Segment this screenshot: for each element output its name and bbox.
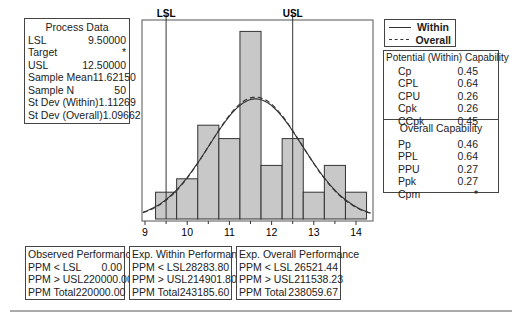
stat-value: 0.27 bbox=[458, 175, 478, 188]
x-tick-label: 11 bbox=[224, 226, 235, 238]
stat-label: PPM < LSL bbox=[239, 261, 292, 274]
stat-value: 243185.60 bbox=[180, 286, 230, 299]
overall-capability-title: Overall Capability bbox=[386, 122, 496, 135]
stat-label: PPM < LSL bbox=[28, 261, 81, 274]
exp-overall-performance-panel: Exp. Overall Performance PPM < LSL26521.… bbox=[236, 246, 341, 300]
stat-label: PPM > USL bbox=[132, 273, 187, 286]
stat-value: * bbox=[474, 188, 478, 201]
stat-row: PPM > USL211538.23 bbox=[239, 273, 338, 286]
stat-value: 238059.67 bbox=[288, 286, 338, 299]
stat-row: Ppk0.27 bbox=[386, 175, 496, 188]
histogram-bar bbox=[219, 139, 240, 219]
stat-row: Cp0.45 bbox=[386, 65, 496, 78]
stat-row: PPL0.64 bbox=[386, 150, 496, 163]
stat-label: Cpm bbox=[398, 188, 420, 201]
potential-capability-title: Potential (Within) Capability bbox=[386, 52, 496, 65]
observed-performance-panel: Observed Performance PPM < LSL0.00PPM > … bbox=[25, 246, 125, 300]
bottom-divider bbox=[10, 310, 512, 312]
legend-item-overall: Overall bbox=[389, 34, 451, 47]
stat-label: PPM > USL bbox=[239, 273, 294, 286]
exp-within-performance-title: Exp. Within Performance bbox=[132, 248, 229, 261]
histogram-bar bbox=[198, 125, 219, 219]
capability-panel: Potential (Within) Capability Cp0.45CPL0… bbox=[383, 50, 499, 193]
stat-label: PPM > USL bbox=[28, 273, 83, 286]
stat-value: 28283.80 bbox=[185, 261, 229, 274]
x-tick-label: 10 bbox=[181, 226, 193, 238]
exp-within-performance-panel: Exp. Within Performance PPM < LSL28283.8… bbox=[129, 246, 232, 300]
lsl-label: LSL bbox=[157, 8, 176, 19]
histogram-bar bbox=[240, 31, 261, 219]
stat-value: 0.64 bbox=[458, 150, 478, 163]
stat-label: PPM Total bbox=[28, 286, 76, 299]
stat-value: 0.46 bbox=[458, 138, 478, 151]
histogram-bar bbox=[261, 165, 282, 219]
stat-label: PPM < LSL bbox=[132, 261, 185, 274]
stat-value: 0.27 bbox=[458, 163, 478, 176]
stat-row: Pp0.46 bbox=[386, 138, 496, 151]
histogram-bar bbox=[345, 192, 366, 219]
dashed-line-icon bbox=[389, 39, 409, 40]
stat-label: PPM Total bbox=[239, 286, 287, 299]
stat-value: 220000.00 bbox=[83, 273, 133, 286]
stat-value: 0.00 bbox=[102, 261, 122, 274]
legend-item-within: Within bbox=[389, 21, 451, 34]
stat-value: 0.45 bbox=[458, 65, 478, 78]
stat-row: PPM < LSL26521.44 bbox=[239, 261, 338, 274]
stat-row: CPL0.64 bbox=[386, 77, 496, 90]
solid-line-icon bbox=[389, 27, 411, 28]
stat-label: PPM Total bbox=[132, 286, 180, 299]
histogram-bar bbox=[177, 179, 198, 219]
histogram-bar bbox=[303, 192, 324, 219]
stat-row: Cpk0.26 bbox=[386, 102, 496, 115]
x-tick-label: 12 bbox=[266, 226, 278, 238]
stat-row: CPU0.26 bbox=[386, 90, 496, 103]
stat-value: 0.26 bbox=[458, 90, 478, 103]
stat-label: CPU bbox=[398, 90, 420, 103]
stat-row: PPM < LSL0.00 bbox=[28, 261, 122, 274]
legend-within-label: Within bbox=[417, 21, 449, 34]
usl-label: USL bbox=[283, 8, 303, 19]
stat-value: 0.26 bbox=[458, 102, 478, 115]
overall-capability-section: Overall Capability Pp0.46PPL0.64PPU0.27P… bbox=[384, 120, 498, 202]
stat-value: 0.64 bbox=[458, 77, 478, 90]
stat-label: Cp bbox=[398, 65, 411, 78]
stat-row: PPM Total243185.60 bbox=[132, 286, 229, 299]
exp-overall-performance-title: Exp. Overall Performance bbox=[239, 248, 338, 261]
stat-row: PPM > USL214901.80 bbox=[132, 273, 229, 286]
stat-value: 214901.80 bbox=[187, 273, 237, 286]
stat-row: PPM Total220000.00 bbox=[28, 286, 122, 299]
stat-row: Cpm* bbox=[386, 188, 496, 201]
stat-row: PPU0.27 bbox=[386, 163, 496, 176]
histogram-bar bbox=[324, 165, 345, 219]
stat-label: Ppk bbox=[398, 175, 416, 188]
stat-value: 26521.44 bbox=[294, 261, 338, 274]
stat-row: PPM < LSL28283.80 bbox=[132, 261, 229, 274]
stat-row: PPM > USL220000.00 bbox=[28, 273, 122, 286]
x-tick-label: 14 bbox=[350, 226, 362, 238]
stat-label: PPU bbox=[398, 163, 420, 176]
x-tick-label: 9 bbox=[142, 226, 148, 238]
stat-label: Cpk bbox=[398, 102, 417, 115]
legend: Within Overall bbox=[384, 19, 456, 47]
legend-overall-label: Overall bbox=[415, 34, 451, 47]
stat-label: Pp bbox=[398, 138, 411, 151]
stat-value: 211538.23 bbox=[294, 273, 343, 286]
stat-row: PPM Total238059.67 bbox=[239, 286, 338, 299]
stat-value: 220000.00 bbox=[76, 286, 126, 299]
potential-capability-section: Potential (Within) Capability Cp0.45CPL0… bbox=[384, 51, 498, 120]
stat-label: CPL bbox=[398, 77, 418, 90]
stat-label: PPL bbox=[398, 150, 418, 163]
x-tick-label: 13 bbox=[308, 226, 320, 238]
observed-performance-title: Observed Performance bbox=[28, 248, 122, 261]
